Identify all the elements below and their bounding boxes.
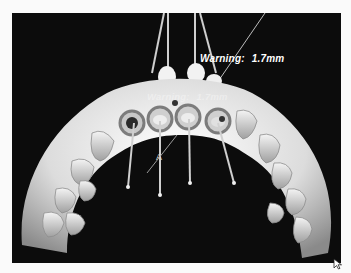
warning-distance-label: Warning:1.7mm — [200, 53, 284, 64]
3d-viewport[interactable]: Warning:1.7mm Warning:1.7mm A — [12, 13, 341, 263]
arrow-cursor-icon — [333, 258, 343, 270]
warning-distance-label-ghost: Warning:1.7mm — [147, 91, 228, 102]
guide-posts — [152, 13, 265, 88]
dental-arch-model — [12, 13, 341, 263]
point-marker-label: A — [156, 152, 162, 162]
